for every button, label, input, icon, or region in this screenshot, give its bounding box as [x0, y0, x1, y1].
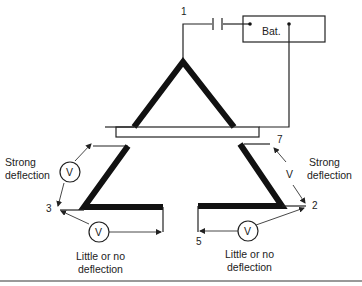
left-strong-text-1: Strong [5, 156, 36, 168]
voltmeter-right-strong: V [274, 148, 305, 203]
right-strong-text-2: deflection [307, 169, 352, 181]
base-plate [116, 127, 259, 137]
left-lower-element [84, 146, 163, 207]
left-strong-text-2: deflection [5, 169, 50, 181]
point-label-3: 3 [46, 203, 52, 214]
battery-box [243, 16, 325, 42]
right-strong-text-1: Strong [309, 156, 340, 168]
lead-wire-1 [183, 24, 212, 62]
voltmeter-right-little: V [200, 208, 304, 241]
right-lower-element [198, 144, 282, 206]
arrow-to-point-3 [58, 183, 64, 206]
left-little-text-2: deflection [78, 263, 123, 275]
thermocouple-test-diagram: 1 Bat. 3 2 7 5 V Strong deflection V L [0, 0, 362, 286]
point-label-7: 7 [277, 134, 283, 145]
battery: Bat. [243, 16, 325, 42]
voltmeter-symbol: V [244, 225, 251, 237]
point-label-2: 2 [312, 200, 318, 211]
voltmeter-symbol: V [286, 168, 293, 180]
lead-wire-battery-to-base [259, 24, 289, 127]
arrow-to-point-2 [293, 185, 305, 203]
right-little-text-2: deflection [227, 261, 272, 273]
point-label-5: 5 [196, 236, 202, 247]
point-label-1: 1 [181, 6, 187, 17]
arrow-to-point-3-lower [61, 211, 89, 224]
voltmeter-left-little: V [61, 211, 161, 242]
voltmeter-symbol: V [66, 166, 73, 178]
voltmeter-symbol: V [95, 226, 102, 238]
battery-label: Bat. [262, 25, 281, 37]
upper-triangle-element [134, 62, 234, 127]
arrow-to-point-2-lower [256, 208, 304, 225]
right-little-text-1: Little or no [225, 248, 274, 260]
battery-terminal-negative [248, 22, 252, 26]
voltmeter-left-strong: V [58, 144, 91, 206]
arrow-to-point-7 [274, 148, 286, 162]
arrow-to-left-top [75, 144, 91, 161]
left-little-text-1: Little or no [76, 250, 125, 262]
